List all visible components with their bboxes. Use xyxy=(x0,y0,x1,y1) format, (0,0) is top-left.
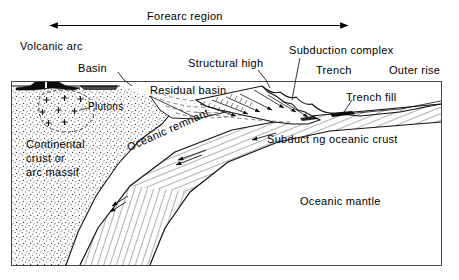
subducting-oceanic-crust-label: Subduct ng oceanic crust xyxy=(267,133,398,145)
basin-unit xyxy=(80,86,120,90)
basin-label: Basin xyxy=(78,62,107,74)
continental-crust-label-line2: crust or xyxy=(26,152,65,164)
figure-canvas: Forearc region Volcanic arc Basin Pluton… xyxy=(0,0,459,280)
trench-label: Trench xyxy=(316,64,352,76)
trench-fill-label: Trench fill xyxy=(346,91,397,103)
continental-crust-label-line3: arc massif xyxy=(26,166,79,178)
plutons-label: Plutons xyxy=(88,101,123,112)
oceanic-mantle-label: Oceanic mantle xyxy=(300,195,381,207)
continental-crust-label-line1: Continental xyxy=(26,138,85,150)
structural-high-label: Structural high xyxy=(188,57,263,69)
forearc-region-label: Forearc region xyxy=(147,10,223,22)
outer-rise-label: Outer rise xyxy=(389,64,440,76)
subduction-complex-label: Subduction complex xyxy=(289,44,393,56)
volcanic-arc-label: Volcanic arc xyxy=(20,40,83,52)
residual-basin-label: Residual basin xyxy=(150,84,226,96)
